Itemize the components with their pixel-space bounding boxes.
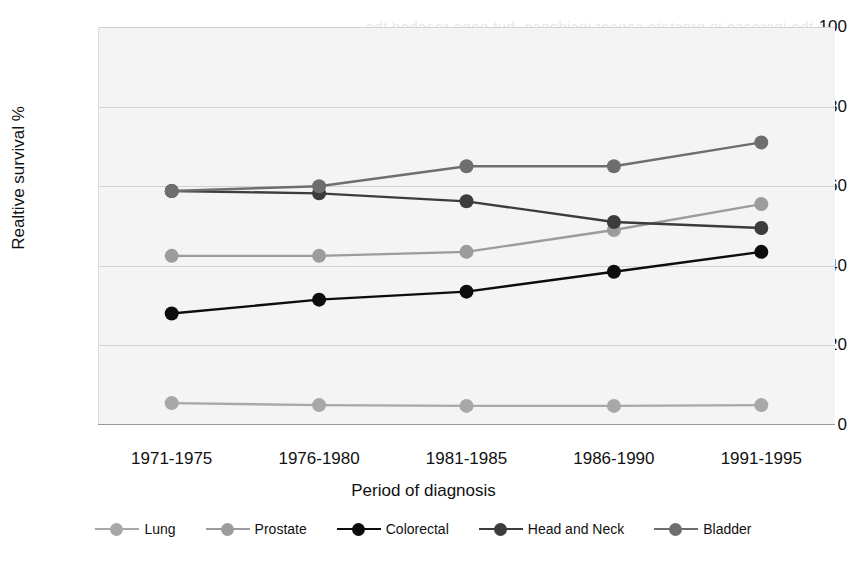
legend-label: Head and Neck bbox=[528, 521, 625, 537]
legend-marker-icon bbox=[110, 523, 123, 536]
legend-marker-icon bbox=[669, 523, 682, 536]
legend-swatch bbox=[479, 522, 523, 536]
chart-figure: in the increase in prostate cancer incid… bbox=[0, 0, 847, 564]
series-line bbox=[172, 252, 762, 314]
legend-item-head-and-neck[interactable]: Head and Neck bbox=[479, 521, 625, 537]
legend-item-bladder[interactable]: Bladder bbox=[654, 521, 751, 537]
data-point bbox=[460, 399, 474, 413]
data-point bbox=[165, 307, 179, 321]
legend-label: Colorectal bbox=[386, 521, 449, 537]
data-point bbox=[754, 135, 768, 149]
data-point bbox=[165, 184, 179, 198]
series-head-and-neck bbox=[165, 184, 769, 235]
legend-marker-icon bbox=[494, 523, 507, 536]
series-layer bbox=[98, 27, 835, 425]
x-tick-label: 1971-1975 bbox=[102, 449, 242, 469]
y-axis-label: Realtive survival % bbox=[9, 73, 29, 283]
data-point bbox=[607, 399, 621, 413]
data-point bbox=[460, 194, 474, 208]
data-point bbox=[312, 293, 326, 307]
x-axis-label: Period of diagnosis bbox=[0, 481, 847, 501]
legend-marker-icon bbox=[221, 523, 234, 536]
data-point bbox=[312, 398, 326, 412]
legend-marker-icon bbox=[352, 523, 365, 536]
legend-label: Bladder bbox=[703, 521, 751, 537]
data-point bbox=[460, 245, 474, 259]
data-point bbox=[754, 221, 768, 235]
x-tick-label: 1976-1980 bbox=[249, 449, 389, 469]
legend-label: Lung bbox=[144, 521, 175, 537]
data-point bbox=[312, 249, 326, 263]
series-lung bbox=[165, 396, 769, 413]
data-point bbox=[607, 265, 621, 279]
legend-label: Prostate bbox=[255, 521, 307, 537]
legend-swatch bbox=[206, 522, 250, 536]
data-point bbox=[754, 398, 768, 412]
data-point bbox=[754, 197, 768, 211]
legend-swatch bbox=[654, 522, 698, 536]
plot-area bbox=[98, 27, 835, 425]
data-point bbox=[460, 285, 474, 299]
data-point bbox=[754, 245, 768, 259]
x-tick-label: 1986-1990 bbox=[544, 449, 684, 469]
data-point bbox=[607, 215, 621, 229]
data-point bbox=[460, 159, 474, 173]
data-point bbox=[165, 249, 179, 263]
legend-item-lung[interactable]: Lung bbox=[95, 521, 175, 537]
series-bladder bbox=[165, 135, 769, 198]
legend-item-prostate[interactable]: Prostate bbox=[206, 521, 307, 537]
data-point bbox=[607, 159, 621, 173]
legend-swatch bbox=[337, 522, 381, 536]
legend-swatch bbox=[95, 522, 139, 536]
data-point bbox=[165, 396, 179, 410]
data-point bbox=[312, 179, 326, 193]
x-tick-label: 1991-1995 bbox=[691, 449, 831, 469]
chart-legend: LungProstateColorectalHead and NeckBladd… bbox=[0, 521, 847, 537]
x-tick-label: 1981-1985 bbox=[397, 449, 537, 469]
legend-item-colorectal[interactable]: Colorectal bbox=[337, 521, 449, 537]
